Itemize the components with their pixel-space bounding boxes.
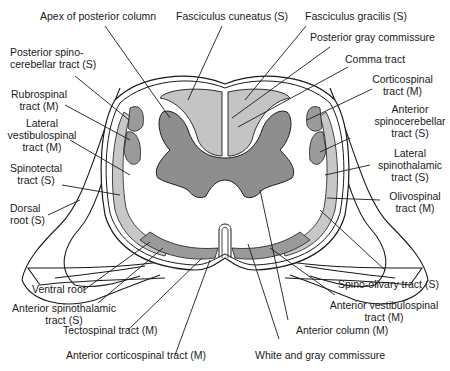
label-anterior-column: Anterior column (M): [296, 324, 388, 336]
label-dorsal-root-line1: Dorsal: [10, 202, 45, 214]
label-olivospinal-line1: Olivospinal: [382, 190, 448, 202]
label-lateral-vestibulospinal-line3: tract (M): [2, 141, 82, 153]
label-spinotectal: Spinotectal tract (S): [6, 162, 66, 186]
label-rubrospinal-line2: tract (M): [8, 100, 70, 112]
label-fasciculus-gracilis: Fasciculus gracilis (S): [305, 10, 407, 22]
label-white-gray-commissure: White and gray commissure: [255, 349, 385, 361]
label-spinotectal-line2: tract (S): [6, 174, 66, 186]
label-lateral-spinothalamic-line3: tract (S): [372, 171, 448, 183]
label-olivospinal: Olivospinal tract (M): [382, 190, 448, 214]
label-lateral-vestibulospinal-line1: Lateral: [2, 117, 82, 129]
label-posterior-gray-commissure: Posterior gray commissure: [310, 31, 435, 43]
label-posterior-spinocerebellar-line1: Posterior spino-: [10, 46, 96, 58]
label-spinotectal-line1: Spinotectal: [6, 162, 66, 174]
label-lateral-spinothalamic: Lateral spinothalamic tract (S): [372, 147, 448, 183]
label-lateral-spinothalamic-line2: spinothalamic: [372, 159, 448, 171]
label-anterior-spinocerebellar-line2: spinocerebellar: [370, 115, 450, 127]
label-corticospinal-line1: Corticospinal: [365, 73, 440, 85]
label-anterior-spinothalamic-line1: Anterior spinothalamic: [8, 302, 120, 314]
label-ventral-root: Ventral root: [32, 283, 86, 295]
label-olivospinal-line2: tract (M): [382, 202, 448, 214]
label-lateral-vestibulospinal-line2: vestibulospinal: [2, 129, 82, 141]
ventral-root-left: [28, 262, 165, 285]
label-lateral-spinothalamic-line1: Lateral: [372, 147, 448, 159]
label-anterior-vestibulospinal-line2: tract (M): [325, 311, 443, 323]
label-corticospinal-line2: tract (M): [365, 85, 440, 97]
label-anterior-vestibulospinal: Anterior vestibulospinal tract (M): [325, 299, 443, 323]
label-anterior-vestibulospinal-line1: Anterior vestibulospinal: [325, 299, 443, 311]
label-anterior-spinocerebellar-line1: Anterior: [370, 103, 450, 115]
label-rubrospinal-line1: Rubrospinal: [8, 88, 70, 100]
label-corticospinal-tract: Corticospinal tract (M): [365, 73, 440, 97]
label-fasciculus-cuneatus: Fasciculus cuneatus (S): [176, 10, 288, 22]
label-tectospinal: Tectospinal tract (M): [63, 324, 158, 336]
label-comma-tract: Comma tract: [345, 53, 405, 65]
label-lateral-vestibulospinal: Lateral vestibulospinal tract (M): [2, 117, 82, 153]
label-anterior-spinocerebellar-line3: tract (S): [370, 127, 450, 139]
label-spino-olivary: Spino-olivary tract (S): [338, 278, 439, 290]
label-posterior-spinocerebellar: Posterior spino- cerebellar tract (S): [10, 46, 96, 70]
label-rubrospinal: Rubrospinal tract (M): [8, 88, 70, 112]
label-anterior-spinothalamic: Anterior spinothalamic tract (S): [8, 302, 120, 326]
label-posterior-spinocerebellar-line2: cerebellar tract (S): [10, 58, 96, 70]
posterior-spinocerebellar-tract-left: [128, 107, 143, 132]
label-anterior-spinocerebellar: Anterior spinocerebellar tract (S): [370, 103, 450, 139]
label-dorsal-root-line2: root (S): [10, 214, 45, 226]
label-apex-posterior-column: Apex of posterior column: [40, 10, 156, 22]
label-anterior-corticospinal: Anterior corticospinal tract (M): [66, 349, 206, 361]
label-dorsal-root: Dorsal root (S): [10, 202, 45, 226]
